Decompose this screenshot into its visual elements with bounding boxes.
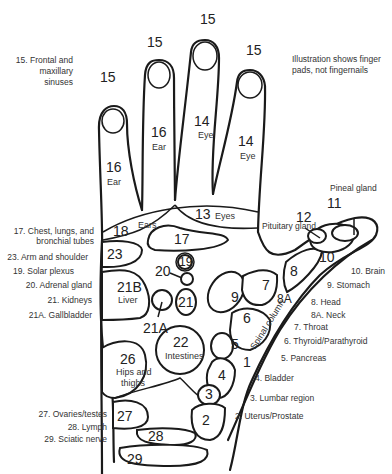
- label-21a: 21A: [143, 320, 169, 336]
- label-5: 5: [231, 336, 239, 352]
- finger-ring-num: 16: [151, 124, 167, 140]
- label-29: 29: [127, 451, 143, 467]
- legend-17-line2: bronchial tubes: [36, 236, 94, 246]
- finger-index-num: 14: [238, 133, 254, 149]
- label-17: 17: [174, 231, 190, 247]
- legend-7: 7. Throat: [294, 322, 329, 332]
- label-19: 19: [179, 255, 193, 269]
- label-3: 3: [205, 386, 213, 402]
- label-4: 4: [218, 367, 226, 383]
- legend-20: 20. Adrenal gland: [26, 280, 92, 290]
- label-27: 27: [117, 408, 133, 424]
- legend-sinus-2: maxillary: [39, 66, 73, 76]
- finger-little-label: Ear: [107, 177, 121, 187]
- leader-20: [170, 273, 182, 278]
- pad-index: [238, 72, 262, 98]
- zone-7: [242, 271, 277, 306]
- label-7: 7: [262, 277, 270, 293]
- label-13-eyes: Eyes: [215, 211, 236, 221]
- label-pituitary-gland: Pituitary gland: [262, 221, 316, 231]
- pad-label-little: 15: [100, 69, 116, 85]
- legend-27: 27. Ovaries/testes: [38, 409, 107, 419]
- label-21: 21: [178, 294, 194, 310]
- legend-9: 9. Stomach: [327, 280, 370, 290]
- label-9: 9: [231, 289, 239, 305]
- label-26: 26: [120, 351, 136, 367]
- finger-index-label: Eye: [240, 151, 256, 161]
- finger-middle-num: 14: [194, 113, 210, 129]
- zone-20: [181, 273, 193, 285]
- legend-17-line1: 17. Chest, lungs, and: [14, 226, 95, 236]
- label-20: 20: [155, 263, 171, 279]
- pad-ring: [148, 62, 170, 88]
- pad-label-ring: 15: [147, 34, 163, 50]
- pad-label-index: 15: [246, 42, 262, 58]
- zone-21a: [152, 290, 172, 310]
- legend-19: 19. Solar plexus: [13, 266, 74, 276]
- left-legend: 17. Chest, lungs, and bronchial tubes 23…: [7, 226, 107, 444]
- label-22: 22: [173, 334, 189, 350]
- zone-28: [137, 428, 196, 445]
- legend-2: 2. Uterus/Prostate: [235, 411, 304, 421]
- legend-29: 29. Sciatic nerve: [44, 434, 107, 444]
- label-1: 1: [243, 354, 251, 370]
- label-liver: Liver: [118, 295, 138, 305]
- legend-23: 23. Arm and shoulder: [7, 252, 88, 262]
- legend-28: 28. Lymph: [68, 422, 108, 432]
- pad-label-middle: 15: [200, 11, 216, 27]
- label-18: 18: [113, 223, 129, 239]
- label-2: 2: [202, 412, 210, 428]
- zone-5: [211, 333, 233, 359]
- label-11: 11: [327, 195, 342, 211]
- finger-little-num: 16: [106, 159, 122, 175]
- label-10: 10: [319, 249, 335, 265]
- hand-reflexology-diagram: Illustration shows finger pads, not fing…: [0, 0, 392, 474]
- legend-sinus-1: 15. Frontal and: [16, 55, 73, 65]
- label-thighs: thighs: [121, 378, 146, 388]
- legend-4: 4. Bladder: [255, 373, 294, 383]
- label-23: 23: [107, 246, 123, 262]
- label-18-ears: Ears: [138, 220, 157, 230]
- note-line-1: Illustration shows finger: [292, 54, 381, 64]
- finger-ring-label: Ear: [152, 142, 166, 152]
- label-hips: Hips and: [116, 367, 152, 377]
- label-21b: 21B: [117, 279, 142, 295]
- legend-5: 5. Pancreas: [281, 353, 326, 363]
- legend-8a: 8A. Neck: [311, 310, 346, 320]
- label-pineal-gland: Pineal gland: [330, 183, 377, 193]
- legend-21a: 21A. Gallbladder: [29, 310, 92, 320]
- pad-little: [102, 109, 124, 133]
- label-28: 28: [148, 428, 164, 444]
- label-8: 8: [290, 263, 298, 279]
- finger-middle-label: Eye: [198, 130, 214, 140]
- legend-21: 21. Kidneys: [48, 295, 92, 305]
- legend-sinus-3: sinuses: [44, 77, 73, 87]
- label-intestines: Intestines: [165, 351, 204, 361]
- legend-8: 8. Head: [311, 297, 341, 307]
- label-6: 6: [243, 310, 251, 326]
- pad-middle: [193, 42, 217, 70]
- note-line-2: pads, not fingernails: [292, 65, 368, 75]
- legend-3: 3. Lumbar region: [250, 393, 315, 403]
- label-13: 13: [195, 206, 211, 222]
- legend-6: 6. Thyroid/Parathyroid: [284, 336, 368, 346]
- legend-10: 10. Brain: [351, 266, 385, 276]
